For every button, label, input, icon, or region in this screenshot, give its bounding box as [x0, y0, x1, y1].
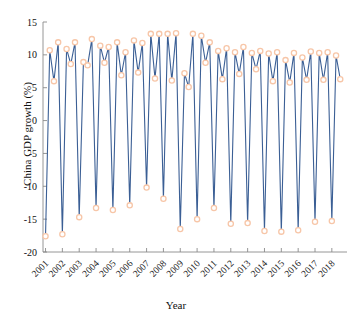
y-tick-label: 15 — [27, 17, 37, 28]
data-point-marker — [64, 46, 69, 51]
x-tick-label: 2017 — [299, 258, 320, 279]
data-point-marker — [186, 84, 191, 89]
data-point-marker — [157, 31, 162, 36]
data-point-marker — [102, 60, 107, 65]
data-point-marker — [308, 49, 313, 54]
data-point-marker — [199, 33, 204, 38]
data-point-marker — [119, 73, 124, 78]
data-point-marker — [195, 217, 200, 222]
data-point-marker — [68, 61, 73, 66]
x-tick-label: 2004 — [80, 258, 101, 279]
data-point-marker — [93, 205, 98, 210]
x-tick-label: 2011 — [199, 258, 219, 278]
data-point-marker — [279, 229, 284, 234]
x-tick-label: 2007 — [131, 258, 152, 279]
data-point-marker — [85, 63, 90, 68]
data-point-marker — [173, 31, 178, 36]
chart-plot-area: -20-15-10-5051015 2001200220032004200520… — [0, 0, 352, 318]
data-point-marker — [110, 207, 115, 212]
x-tick-label: 2005 — [97, 258, 118, 279]
x-tick-label: 2015 — [266, 258, 287, 279]
data-point-marker — [220, 77, 225, 82]
data-point-marker — [140, 40, 145, 45]
data-point-marker — [123, 50, 128, 55]
data-point-marker — [287, 80, 292, 85]
data-point-marker — [249, 50, 254, 55]
data-point-marker — [338, 77, 343, 82]
x-tick-label: 2003 — [64, 258, 85, 279]
x-tick-label: 2010 — [182, 258, 203, 279]
x-tick-label: 2009 — [165, 258, 186, 279]
data-point-marker — [321, 77, 326, 82]
data-point-marker — [228, 221, 233, 226]
data-point-marker — [232, 50, 237, 55]
data-point-marker — [144, 185, 149, 190]
data-point-marker — [161, 196, 166, 201]
y-axis-label: China GDP growth (%) — [21, 54, 33, 214]
x-tick-label: 2014 — [249, 258, 270, 279]
x-tick-label: 2001 — [30, 258, 51, 279]
data-point-marker — [241, 44, 246, 49]
data-point-marker — [136, 70, 141, 75]
data-point-marker — [224, 46, 229, 51]
data-point-marker — [72, 40, 77, 45]
x-tick-labels: 2001200220032004200520062007200820092010… — [30, 258, 337, 279]
chart-figure: -20-15-10-5051015 2001200220032004200520… — [0, 0, 352, 318]
data-point-marker — [165, 31, 170, 36]
data-point-marker — [312, 219, 317, 224]
data-point-marker — [296, 228, 301, 233]
x-tick-label: 2018 — [316, 258, 337, 279]
data-point-marker — [258, 48, 263, 53]
y-tick-label: -15 — [24, 214, 37, 225]
data-point-marker — [245, 220, 250, 225]
x-tick-label: 2006 — [114, 258, 135, 279]
data-point-marker — [169, 78, 174, 83]
data-point-marker — [300, 55, 305, 60]
x-tick-label: 2012 — [215, 258, 236, 279]
data-point-marker — [216, 48, 221, 53]
y-tick-label: -20 — [24, 247, 37, 258]
data-point-marker — [262, 228, 267, 233]
data-point-marker — [190, 31, 195, 36]
data-point-marker — [152, 76, 157, 81]
data-point-marker — [329, 219, 334, 224]
data-point-marker — [106, 44, 111, 49]
data-point-marker — [51, 79, 56, 84]
data-point-marker — [60, 232, 65, 237]
x-axis-label: Year — [0, 299, 352, 311]
data-point-marker — [253, 67, 258, 72]
data-point-marker — [47, 48, 52, 53]
data-point-marker — [275, 50, 280, 55]
data-point-marker — [131, 38, 136, 43]
data-point-marker — [98, 43, 103, 48]
data-point-marker — [325, 50, 330, 55]
x-tick-label: 2016 — [283, 258, 304, 279]
data-point-marker — [203, 60, 208, 65]
data-point-marker — [115, 40, 120, 45]
data-point-marker — [148, 31, 153, 36]
data-point-marker — [237, 71, 242, 76]
x-tick-label: 2013 — [232, 258, 253, 279]
data-point-marker — [207, 40, 212, 45]
x-tick-label: 2002 — [47, 258, 68, 279]
data-point-marker — [317, 50, 322, 55]
data-point-marker — [283, 58, 288, 63]
data-point-marker — [89, 36, 94, 41]
data-point-marker — [56, 40, 61, 45]
data-point-marker — [77, 215, 82, 220]
data-point-marker — [178, 226, 183, 231]
data-point-marker — [43, 234, 48, 239]
data-point-marker — [291, 50, 296, 55]
data-point-marker — [266, 51, 271, 56]
data-point-marker — [270, 79, 275, 84]
data-point-marker — [127, 203, 132, 208]
data-point-marker — [211, 205, 216, 210]
data-point-marker — [333, 53, 338, 58]
data-point-marker — [304, 77, 309, 82]
data-point-marker — [182, 71, 187, 76]
x-tick-label: 2008 — [148, 258, 169, 279]
